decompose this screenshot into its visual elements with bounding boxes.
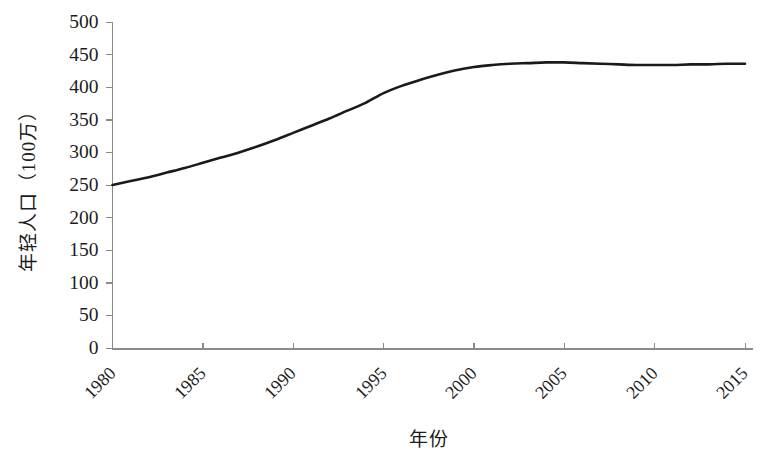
- x-axis-title: 年份: [113, 424, 746, 451]
- plot-area: [0, 0, 763, 466]
- data-series-line: [113, 62, 746, 185]
- chart-figure: 年轻人口（100万） 05010015020025030035040045050…: [0, 0, 763, 466]
